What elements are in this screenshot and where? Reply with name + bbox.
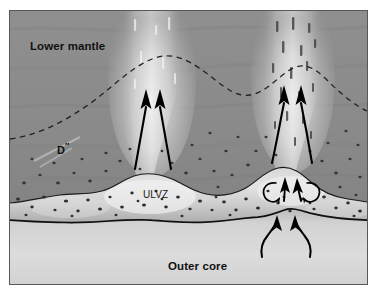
label-ulvz: ULVZ [143,189,168,200]
label-d-double-prime: D″ [57,141,69,156]
mantle-cross-section-figure: Lower mantle D″ ULVZ Outer core [0,0,387,298]
label-outer-core: Outer core [168,260,227,272]
label-d-double-prime-superscript: ″ [65,141,69,151]
figure-frame: Lower mantle D″ ULVZ Outer core [9,10,368,285]
label-lower-mantle: Lower mantle [30,40,105,52]
label-d-double-prime-base: D [57,144,65,156]
